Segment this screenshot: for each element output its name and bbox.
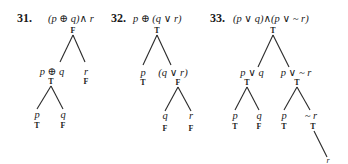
tree-edge — [273, 35, 289, 67]
node-value: T — [140, 78, 146, 87]
node-label: q — [162, 110, 167, 121]
problem-33: 33. (p ∨ q)∧(p ∨ ~ r) T p ∨ q T p ∨ ~ r … — [210, 11, 330, 164]
node-value: F — [176, 78, 181, 87]
node-label: q — [256, 110, 261, 121]
node-label: q — [60, 109, 65, 120]
node-value: F — [189, 124, 194, 133]
node-value: F — [84, 77, 89, 86]
root-value: T — [154, 26, 160, 35]
node-label: r — [326, 156, 330, 164]
tree-edge — [60, 35, 73, 62]
problem-number: 33. — [210, 11, 225, 25]
tree-edge — [258, 35, 273, 67]
tree-edge — [73, 35, 85, 62]
node-value: F — [61, 121, 66, 130]
node-label: p — [33, 109, 39, 120]
tree-edge — [178, 87, 191, 111]
tree-edge — [51, 86, 63, 109]
tree-edge — [235, 87, 247, 110]
node-value: T — [48, 77, 54, 86]
node-label: p ⊕ q — [39, 66, 65, 77]
node-value: T — [294, 78, 300, 87]
node-label: p — [139, 67, 145, 78]
root-value: F — [71, 26, 76, 35]
node-value: T — [244, 78, 250, 87]
tree-edge — [284, 87, 297, 110]
node-label: r — [189, 110, 194, 121]
tree-edge — [247, 87, 259, 110]
node-label: ~ r — [305, 110, 318, 121]
node-value: F — [163, 124, 168, 133]
problem-32: 32. p ⊕ (q ∨ r) T p T (q ∨ r) F q F r F — [111, 11, 194, 133]
tree-edge — [157, 35, 171, 65]
tree-edge — [297, 87, 310, 110]
node-value: T — [34, 121, 40, 130]
tree-edge — [314, 131, 327, 157]
problem-31: 31. (p ⊕ q)∧ r F p ⊕ q T r F p T q F — [17, 11, 95, 130]
tree-edge — [37, 86, 51, 109]
node-label: p — [280, 110, 286, 121]
problem-number: 32. — [111, 11, 126, 25]
formula: (p ∨ q)∧(p ∨ ~ r) — [233, 13, 309, 25]
node-value: T — [310, 122, 316, 131]
tree-edge — [143, 35, 157, 65]
node-label: p ∨ ~ r — [280, 67, 312, 78]
node-label: r — [84, 66, 89, 77]
node-value: T — [281, 122, 287, 131]
formula: p ⊕ (q ∨ r) — [132, 13, 182, 25]
truth-tree-diagram: 31. (p ⊕ q)∧ r F p ⊕ q T r F p T q F 32.… — [0, 0, 348, 164]
node-label: (q ∨ r) — [158, 67, 188, 79]
tree-edge — [165, 87, 178, 111]
node-value: F — [257, 122, 262, 131]
node-label: p — [231, 110, 237, 121]
formula: (p ⊕ q)∧ r — [48, 13, 95, 25]
node-value: T — [232, 122, 238, 131]
node-label: p ∨ q — [239, 67, 263, 78]
problem-number: 31. — [17, 11, 32, 25]
root-value: T — [270, 26, 276, 35]
